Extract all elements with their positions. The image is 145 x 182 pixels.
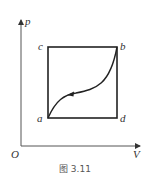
pv-diagram: p V O c b a d 图 3.11 bbox=[0, 0, 145, 182]
point-b-label: b bbox=[120, 40, 126, 52]
process-curve bbox=[48, 47, 117, 118]
point-c-label: c bbox=[38, 40, 43, 52]
figure-caption: 图 3.11 bbox=[59, 164, 91, 174]
v-axis-label: V bbox=[133, 148, 141, 160]
origin-label: O bbox=[11, 148, 19, 160]
point-d-label: d bbox=[120, 112, 126, 124]
p-axis-label: p bbox=[24, 15, 31, 27]
cycle-rectangle bbox=[48, 47, 117, 118]
point-a-label: a bbox=[37, 112, 43, 124]
